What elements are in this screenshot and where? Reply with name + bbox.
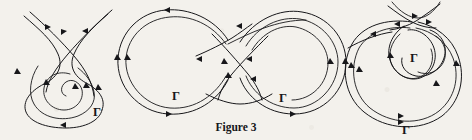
panel3-arrow-7: [387, 52, 394, 58]
panel3-arrow-10: [398, 113, 404, 119]
figure-3-svg: Γ: [0, 0, 472, 140]
panel2-left-gamma-label: Γ: [172, 89, 180, 103]
panel2-arrow-2: [124, 54, 131, 60]
panel2-arrow-1: [114, 54, 121, 60]
figure-3-container: Γ: [0, 0, 472, 140]
panel3-second-contour: [354, 27, 456, 121]
panel2-arrow-3: [164, 7, 170, 13]
panel1-spiral: [44, 73, 83, 110]
panel1-crossing-branch-a: [30, 12, 94, 96]
panel3-bottom-gamma-label: Γ: [402, 123, 410, 137]
panel1-arrow-8: [95, 84, 102, 90]
panel2-arrow-6: [221, 58, 228, 64]
panel1-arrow-3: [82, 28, 88, 34]
panel1-arrow-4: [14, 68, 21, 74]
panel3-outer-contour: [345, 21, 461, 127]
panel2-right-gamma-label: Γ: [279, 91, 287, 105]
panel2-neck-upper-left: [196, 24, 252, 56]
panel2-arrow-4: [166, 111, 172, 117]
panel3-arrow-3: [426, 19, 432, 25]
panel3-arrow-6: [356, 66, 363, 72]
panel3-arrow-2: [394, 21, 400, 27]
panel3-inner-gamma-label: Γ: [410, 51, 418, 65]
panel2-arrow-12: [290, 111, 296, 117]
panel2-neck-lower: [206, 94, 272, 104]
panel3-hook: [402, 30, 446, 76]
panel1-arrow-2: [61, 29, 67, 35]
panel2-neck-upper-right: [228, 20, 306, 44]
figure-caption: Figure 3: [216, 121, 257, 134]
panel1-arrow-6: [72, 83, 79, 89]
panel-1-teardrop-with-spiral: Γ: [14, 10, 112, 128]
panel-3-nested-loop-with-hook: Γ Γ: [345, 2, 461, 137]
panel2-arrow-13: [236, 23, 242, 29]
panel1-crossing-branch-b: [46, 10, 112, 92]
panel1-arrow-9: [60, 122, 66, 128]
panel2-arrow-5: [196, 56, 202, 62]
panel1-separatrix-outer-right: [72, 14, 108, 110]
panel3-arrow-11: [433, 80, 440, 86]
panel1-inner-loop: [31, 66, 95, 119]
panel-2-figure-eight: Γ Γ: [114, 7, 349, 117]
panel2-right-lobe-inner-2: [252, 26, 328, 100]
panel1-gamma-label: Γ: [93, 105, 101, 119]
